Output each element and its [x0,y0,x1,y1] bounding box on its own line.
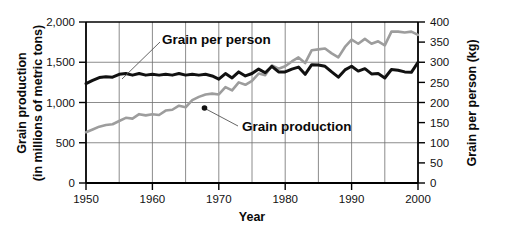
left-tick-label: 2,000 [46,16,75,28]
chart-figure: Grain per person Grain production 2,000 … [0,0,507,234]
right-tick-label: 300 [430,56,449,68]
left-tick-label: 1,000 [46,97,75,109]
y-axis-left-title-line2: (in millions of metric tons) [31,25,45,181]
x-tick-label: 1950 [73,193,99,205]
x-tick-label: 1980 [272,193,298,205]
x-axis-title: Year [239,210,266,224]
right-tick-label: 150 [430,117,449,129]
grain-production-line-chart: Grain per person Grain production 2,000 … [0,0,507,234]
right-tick-label: 100 [430,137,449,149]
y-axis-left-title-line1: Grain production [15,52,29,153]
x-tick-label: 2000 [405,193,431,205]
right-tick-label: 400 [430,16,449,28]
left-tick-label: 0 [69,177,75,189]
grain-production-label: Grain production [242,119,352,134]
right-tick-label: 250 [430,77,449,89]
annotation-dot [202,105,208,111]
grain-per-person-label: Grain per person [162,32,271,47]
y-axis-right-title: Grain per person (kg) [465,39,479,166]
right-tick-label: 350 [430,36,449,48]
right-tick-label: 0 [430,177,436,189]
left-tick-label: 1,500 [46,56,75,68]
right-tick-label: 50 [430,157,443,169]
x-tick-label: 1970 [206,193,232,205]
left-tick-label: 500 [56,137,75,149]
x-tick-label: 1990 [339,193,365,205]
right-tick-label: 200 [430,97,449,109]
x-tick-label: 1960 [140,193,166,205]
